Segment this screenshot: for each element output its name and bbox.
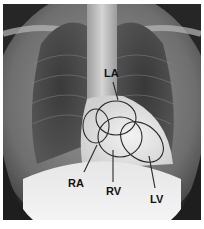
caption	[2, 220, 202, 229]
label-rv: RV	[106, 185, 121, 197]
label-ra: RA	[68, 177, 84, 189]
la-leader-line	[113, 82, 118, 100]
left-atrium-outline	[96, 101, 136, 135]
left-ventricle-outline	[113, 114, 172, 171]
ra-leader-line	[84, 145, 97, 172]
figure: LA RA RV LV	[0, 0, 204, 229]
label-la: LA	[104, 67, 119, 79]
right-ventricle-outline	[98, 117, 142, 157]
cardiac-chamber-overlay	[0, 0, 204, 229]
label-lv: LV	[150, 193, 163, 205]
lv-leader-line	[149, 156, 155, 188]
